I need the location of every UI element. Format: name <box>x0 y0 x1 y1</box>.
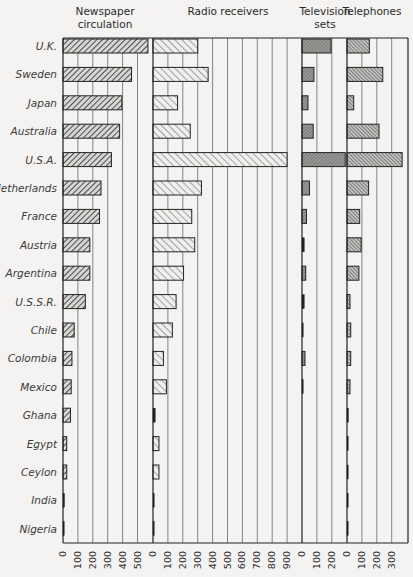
category-label: Mexico <box>20 381 57 393</box>
bar-radio-receivers <box>153 181 201 195</box>
bar-telephones <box>347 96 354 110</box>
bar-newspaper-circulation <box>63 408 70 422</box>
tick-label-radio-receivers: 700 <box>251 551 262 569</box>
category-label: Netherlands <box>0 182 58 194</box>
bar-radio-receivers <box>153 39 198 53</box>
bar-radio-receivers <box>153 323 172 337</box>
bar-radio-receivers <box>153 124 190 138</box>
bar-radio-receivers <box>153 465 159 479</box>
bar-newspaper-circulation <box>63 96 122 110</box>
bar-television-sets <box>302 153 345 167</box>
tick-label-radio-receivers: 600 <box>236 551 247 569</box>
category-label: U.S.S.R. <box>15 296 57 308</box>
tick-label-radio-receivers: 200 <box>177 551 188 569</box>
bar-newspaper-circulation <box>63 39 148 53</box>
tick-label-telephones: 300 <box>386 551 397 569</box>
category-label: India <box>31 494 57 506</box>
tick-label-newspaper-circulation: 100 <box>72 551 83 569</box>
category-label: Japan <box>26 97 57 109</box>
tick-label-radio-receivers: 500 <box>222 551 233 569</box>
category-label: Chile <box>31 324 57 336</box>
bar-newspaper-circulation <box>63 67 132 81</box>
bar-newspaper-circulation <box>63 153 111 167</box>
bars <box>63 39 402 536</box>
bar-television-sets <box>302 181 309 195</box>
bar-radio-receivers <box>153 96 178 110</box>
tick-label-newspaper-circulation: 500 <box>132 551 143 569</box>
bar-television-sets <box>302 124 313 138</box>
bar-newspaper-circulation <box>63 295 85 309</box>
frame <box>63 38 408 543</box>
bar-radio-receivers <box>153 153 287 167</box>
tick-label-newspaper-circulation: 0 <box>57 551 68 557</box>
tick-label-radio-receivers: 100 <box>162 551 173 569</box>
panel-title-telephones: Telephones <box>342 5 402 17</box>
category-label: Austria <box>19 239 57 251</box>
bar-newspaper-circulation <box>63 380 71 394</box>
bar-radio-receivers <box>153 67 208 81</box>
tick-label-newspaper-circulation: 400 <box>117 551 128 569</box>
category-label: France <box>21 210 57 222</box>
panel-title-newspaper-circulation: circulation <box>78 18 133 30</box>
bar-radio-receivers <box>153 351 163 365</box>
category-label: Australia <box>10 125 57 137</box>
bar-telephones <box>347 181 369 195</box>
chart: Newspapercirculation0100200300400500Radi… <box>0 0 413 577</box>
bar-telephones <box>347 238 361 252</box>
tick-label-radio-receivers: 800 <box>266 551 277 569</box>
bar-newspaper-circulation <box>63 124 120 138</box>
bar-telephones <box>347 266 359 280</box>
tick-label-television-sets: 100 <box>311 551 322 569</box>
tick-label-telephones: 100 <box>356 551 367 569</box>
category-label: Sweden <box>16 68 58 80</box>
bar-radio-receivers <box>153 266 184 280</box>
category-label: U.K. <box>36 40 57 52</box>
bar-newspaper-circulation <box>63 209 100 223</box>
tick-label-radio-receivers: 0 <box>147 551 158 557</box>
category-label: Argentina <box>5 267 57 279</box>
tick-label-telephones: 200 <box>371 551 382 569</box>
category-label: U.S.A. <box>25 154 57 166</box>
bar-radio-receivers <box>153 380 166 394</box>
tick-label-television-sets: 0 <box>296 551 307 557</box>
panel-title-television-sets: sets <box>314 18 336 30</box>
bar-television-sets <box>302 96 308 110</box>
bar-newspaper-circulation <box>63 323 74 337</box>
category-label: Egypt <box>27 438 58 450</box>
labels: Newspapercirculation0100200300400500Radi… <box>0 5 401 569</box>
tick-label-radio-receivers: 900 <box>281 551 292 569</box>
category-label: Ceylon <box>21 466 57 478</box>
bar-telephones <box>347 39 369 53</box>
category-label: Colombia <box>8 352 57 364</box>
tick-label-radio-receivers: 400 <box>207 551 218 569</box>
bar-radio-receivers <box>153 238 195 252</box>
bar-radio-receivers <box>153 209 192 223</box>
bar-telephones <box>347 67 383 81</box>
panel-title-newspaper-circulation: Newspaper <box>76 5 136 17</box>
bar-radio-receivers <box>153 295 176 309</box>
bar-radio-receivers <box>153 437 159 451</box>
bar-newspaper-circulation <box>63 238 90 252</box>
category-label: Ghana <box>23 409 57 421</box>
tick-label-television-sets: 200 <box>326 551 337 569</box>
bar-newspaper-circulation <box>63 351 72 365</box>
tick-label-newspaper-circulation: 300 <box>102 551 113 569</box>
bar-newspaper-circulation <box>63 266 90 280</box>
bar-telephones <box>347 153 402 167</box>
bar-television-sets <box>302 39 331 53</box>
tick-label-radio-receivers: 300 <box>192 551 203 569</box>
gridlines <box>78 38 392 543</box>
tick-label-newspaper-circulation: 200 <box>87 551 98 569</box>
bar-telephones <box>347 209 360 223</box>
tick-label-telephones: 0 <box>341 551 352 557</box>
category-label: Nigeria <box>19 523 57 535</box>
panel-title-radio-receivers: Radio receivers <box>187 5 268 17</box>
bar-television-sets <box>302 209 306 223</box>
bar-television-sets <box>302 67 314 81</box>
bar-newspaper-circulation <box>63 181 101 195</box>
bar-telephones <box>347 124 379 138</box>
